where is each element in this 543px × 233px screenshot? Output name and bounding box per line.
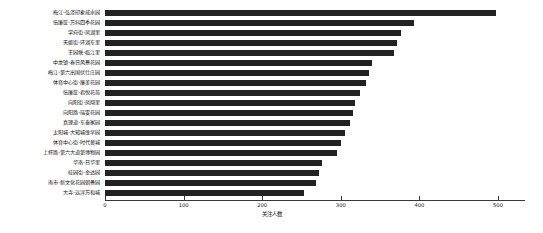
x-axis-title: 关注人数 (0, 212, 543, 217)
bar (105, 120, 350, 127)
y-axis-tick-label: 伍廉筐-万科四季花园 (53, 20, 100, 25)
bar-fill (105, 50, 394, 57)
y-axis-tick-label: 桂园街-金达园 (68, 170, 100, 175)
y-axis-tick-label: 上杯路-第六大道第博物园 (43, 150, 100, 155)
x-axis-title-text: 关注人数 (262, 212, 282, 217)
y-axis-tick-label: 华南-日华里 (73, 160, 100, 165)
x-axis-tick-mark (105, 196, 106, 200)
y-axis-tick-label: 天姬街-环湖东里 (63, 40, 100, 45)
bar (105, 100, 355, 107)
bar (105, 170, 319, 177)
bar (105, 80, 366, 87)
bar (105, 180, 316, 187)
bars-layer (105, 8, 498, 198)
bar-fill (105, 20, 414, 27)
bar (105, 50, 394, 57)
y-axis-tick-label: 体育中心街-廉美花园 (53, 80, 100, 85)
x-axis-tick-label: 0 (103, 203, 106, 208)
y-axis-tick-label: 向阳路-瑞雯花园 (63, 110, 100, 115)
plot-area (105, 8, 498, 198)
y-axis-tick-label: 真理道-东泰家园 (63, 120, 100, 125)
x-axis-tick-label: 500 (493, 203, 503, 208)
bar-fill (105, 140, 341, 147)
bar (105, 40, 397, 47)
bar-fill (105, 190, 304, 197)
bar-fill (105, 120, 350, 127)
y-axis-tick-label: 南市-新文化花园朝景园 (48, 180, 100, 185)
bar (105, 30, 401, 37)
bar-chart: 梅江-弘泽印象威水园伍廉筐-万科四季花园学府街-凤湖里天姬街-环湖东里王园塘-临… (0, 0, 543, 233)
x-axis-tick-mark (419, 196, 420, 200)
bar-fill (105, 80, 366, 87)
bar (105, 20, 414, 27)
y-axis-tick-label: 学府街-凤湖里 (68, 30, 100, 35)
y-axis-tick-label: 向阳街-凤翔里 (68, 100, 100, 105)
bar-fill (105, 150, 337, 157)
bar-fill (105, 130, 345, 137)
x-axis-tick-label: 100 (179, 203, 189, 208)
bar (105, 110, 353, 117)
y-axis-tick-label: 大寺-远洋万和城 (63, 190, 100, 195)
x-axis-line (105, 200, 525, 201)
x-axis-tick-label: 300 (336, 203, 346, 208)
bar-fill (105, 180, 316, 187)
y-axis-tick-label: 王园塘-临江里 (68, 50, 100, 55)
bar-fill (105, 100, 355, 107)
y-axis-tick-label: 中龙镇-春日风景花园 (53, 60, 100, 65)
bar-fill (105, 40, 397, 47)
bar (105, 160, 322, 167)
bar-fill (105, 60, 372, 67)
x-axis-tick-mark (262, 196, 263, 200)
bar (105, 190, 304, 197)
x-axis-tick-mark (184, 196, 185, 200)
y-axis-labels: 梅江-弘泽印象威水园伍廉筐-万科四季花园学府街-凤湖里天姬街-环湖东里王园塘-临… (0, 8, 103, 198)
bar-fill (105, 90, 360, 97)
y-axis-tick-label: 梅江-第六出国伏仕庄园 (48, 70, 100, 75)
x-axis-tick-mark (498, 196, 499, 200)
bar-fill (105, 10, 496, 17)
bar-fill (105, 170, 319, 177)
y-axis-tick-label: 体育中心街-时代奥城 (53, 140, 100, 145)
y-axis-tick-label: 太阳城-大知城维早园 (53, 130, 100, 135)
x-axis-tick-label: 400 (414, 203, 424, 208)
bar (105, 130, 345, 137)
bar-fill (105, 160, 322, 167)
bar (105, 60, 372, 67)
bar (105, 150, 337, 157)
bar (105, 90, 360, 97)
bar-fill (105, 30, 401, 37)
bar (105, 70, 369, 77)
y-axis-tick-label: 伍廉筐-君悦花苑 (63, 90, 100, 95)
bar-fill (105, 70, 369, 77)
x-axis-tick-mark (341, 196, 342, 200)
x-axis-tick-label: 200 (257, 203, 267, 208)
y-axis-tick-label: 梅江-弘泽印象威水园 (53, 10, 100, 15)
bar (105, 140, 341, 147)
bar (105, 10, 496, 17)
bar-fill (105, 110, 353, 117)
